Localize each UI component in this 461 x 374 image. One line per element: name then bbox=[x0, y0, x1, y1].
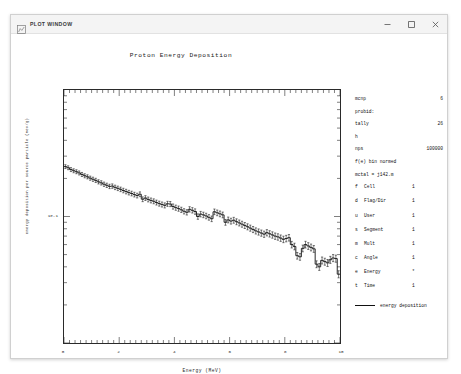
bin-code: d bbox=[355, 198, 364, 203]
bin-norm-text: f(e) bin normed bbox=[355, 159, 447, 172]
minimize-button[interactable] bbox=[375, 15, 399, 33]
y-axis-label: energy deposition per source particle (M… bbox=[25, 96, 29, 256]
bin-value: 1 bbox=[412, 283, 415, 288]
info-row-value: 6 bbox=[440, 96, 447, 101]
plot-window-icon bbox=[17, 20, 26, 29]
x-tick-label: 2 bbox=[112, 349, 126, 354]
info-panel: mcnp6probid:tally26h nps 100000 f(e) bin… bbox=[355, 96, 447, 308]
info-row: mcnp6 bbox=[355, 96, 447, 109]
bin-value: 1 bbox=[412, 213, 415, 218]
bin-name: User bbox=[364, 213, 412, 218]
nps-key: nps bbox=[355, 146, 363, 151]
tally-bin-table: fCell1dFlag/Dir1uUser1sSegment1mMult1cAn… bbox=[355, 184, 447, 298]
plot-canvas: Proton Energy Deposition energy depositi… bbox=[11, 34, 447, 358]
bin-value: 1 bbox=[412, 255, 415, 260]
x-tick-label: 4 bbox=[167, 349, 181, 354]
info-row-value: 26 bbox=[437, 121, 447, 126]
x-tick-label: 0 bbox=[56, 349, 70, 354]
bin-code: f bbox=[355, 184, 364, 189]
maximize-button[interactable] bbox=[399, 15, 423, 33]
info-header-rows: mcnp6probid:tally26h bbox=[355, 96, 447, 146]
x-axis-label: Energy (MeV) bbox=[63, 368, 341, 373]
info-row-key: probid: bbox=[355, 109, 374, 114]
bin-code: u bbox=[355, 213, 364, 218]
bin-name: Angle bbox=[364, 255, 412, 260]
bin-code: s bbox=[355, 227, 364, 232]
tally-bin-row: cAngle1 bbox=[355, 255, 447, 269]
info-row: tally26 bbox=[355, 121, 447, 134]
x-tick-label: 6 bbox=[223, 349, 237, 354]
bin-value: * bbox=[412, 269, 415, 274]
bin-value: 1 bbox=[412, 198, 415, 203]
tally-bin-row: uUser1 bbox=[355, 213, 447, 227]
bin-code: t bbox=[355, 283, 364, 288]
tally-bin-row: fCell1 bbox=[355, 184, 447, 198]
plot-frame bbox=[63, 89, 341, 344]
plot-series-svg bbox=[64, 90, 340, 343]
bin-name: Segment bbox=[364, 227, 412, 232]
info-row-nps: nps 100000 bbox=[355, 146, 447, 159]
window-title: PLOT WINDOW bbox=[30, 21, 72, 27]
legend-label: energy deposition bbox=[380, 303, 427, 308]
tally-bin-row: sSegment1 bbox=[355, 227, 447, 241]
x-tick-label: 8 bbox=[278, 349, 292, 354]
bin-name: Time bbox=[364, 283, 412, 288]
info-row: probid: bbox=[355, 109, 447, 122]
info-row-key: h bbox=[355, 134, 358, 139]
chart-title: Proton Energy Deposition bbox=[11, 52, 351, 59]
x-tick-label: 10 bbox=[334, 349, 348, 354]
tally-bin-row: eEnergy* bbox=[355, 269, 447, 283]
tally-bin-row: tTime1 bbox=[355, 283, 447, 297]
plot-window: PLOT WINDOW Proton Energy Deposition ene… bbox=[10, 14, 448, 359]
bin-value: 1 bbox=[412, 184, 415, 189]
bin-name: Energy bbox=[364, 269, 412, 274]
legend-line-swatch bbox=[355, 305, 375, 306]
legend-entry: energy deposition bbox=[355, 303, 447, 308]
info-row-key: tally bbox=[355, 121, 369, 126]
bin-code: c bbox=[355, 255, 364, 260]
window-titlebar: PLOT WINDOW bbox=[11, 15, 447, 34]
tally-bin-row: mMult1 bbox=[355, 241, 447, 255]
tally-bin-row: dFlag/Dir1 bbox=[355, 198, 447, 212]
bin-name: Cell bbox=[364, 184, 412, 189]
bin-name: Mult bbox=[364, 241, 412, 246]
y-tick-label: 1e-1 bbox=[36, 213, 58, 218]
bin-name: Flag/Dir bbox=[364, 198, 412, 203]
bin-code: m bbox=[355, 241, 364, 246]
bin-value: 1 bbox=[412, 241, 415, 246]
mctal-file-text: mctal = j142.m bbox=[355, 172, 447, 185]
nps-value: 100000 bbox=[426, 146, 447, 151]
bin-code: e bbox=[355, 269, 364, 274]
close-button[interactable] bbox=[423, 15, 447, 33]
info-row: h bbox=[355, 134, 447, 147]
bin-value: 1 bbox=[412, 227, 415, 232]
info-row-key: mcnp bbox=[355, 96, 366, 101]
